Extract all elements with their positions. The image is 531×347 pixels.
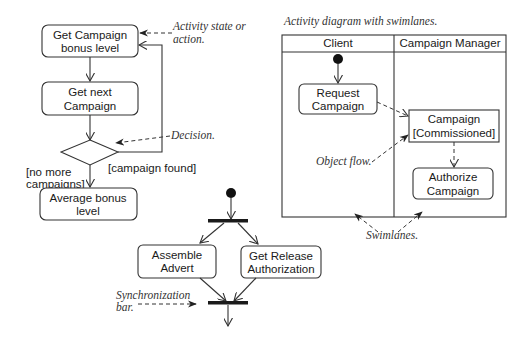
annotation-object-flow: Object flow. <box>316 155 371 168</box>
join-bar <box>208 301 248 305</box>
left-activity-flow: Get Campaign bonus level Get next Campai… <box>26 20 246 220</box>
object-label-line1: Campaign <box>428 113 480 125</box>
initial-node <box>226 188 236 198</box>
lane-header-campaign-manager: Campaign Manager <box>399 37 500 49</box>
activity-diagram-figure: Get Campaign bonus level Get next Campai… <box>0 0 531 347</box>
guard-campaign-found: [campaign found] <box>108 162 196 174</box>
swimlane-diagram: Activity diagram with swimlanes. Client … <box>282 15 506 241</box>
activity-get-release-authorization: Get Release Authorization <box>241 246 321 278</box>
initial-node <box>333 54 343 64</box>
activity-label-line2: level <box>76 205 100 217</box>
activity-label-line1: Authorize <box>429 171 478 183</box>
activity-label-line1: Average bonus <box>49 192 126 204</box>
annotation-activity-line2: action. <box>173 33 205 45</box>
annotation-activity-line1: Activity state or <box>172 20 246 33</box>
activity-label-line1: Get next <box>68 86 112 98</box>
flow-arrow <box>238 223 258 244</box>
flow-arrow <box>200 278 226 301</box>
object-campaign-commissioned: Campaign [Commissioned] <box>409 110 499 142</box>
object-label-line2: [Commissioned] <box>413 127 495 139</box>
activity-authorize-campaign: Authorize Campaign <box>413 168 493 199</box>
swimlane-caption: Activity diagram with swimlanes. <box>283 15 437 28</box>
activity-label-line2: Campaign <box>312 100 364 112</box>
activity-label-line1: Request <box>317 87 361 99</box>
activity-label-line1: Assemble <box>152 249 203 261</box>
activity-average-bonus-level: Average bonus level <box>40 188 137 220</box>
annotation-swimlanes: Swimlanes. <box>366 229 418 241</box>
activity-get-campaign-bonus-level: Get Campaign bonus level <box>42 25 138 57</box>
lane-header-client: Client <box>323 37 353 49</box>
activity-label-line2: Authorization <box>247 263 314 275</box>
guard-no-more-line1: [no more <box>26 166 71 178</box>
annotation-sync-line2: bar. <box>116 301 134 313</box>
activity-label-line2: bonus level <box>61 42 119 54</box>
annotation-decision: Decision. <box>170 129 215 141</box>
activity-label-line1: Get Campaign <box>53 29 127 41</box>
activity-get-next-campaign: Get next Campaign <box>42 82 138 115</box>
activity-label-line2: Campaign <box>427 185 479 197</box>
flow-arrow <box>200 223 224 243</box>
activity-request-campaign: Request Campaign <box>299 84 377 114</box>
fork-bar <box>208 219 248 223</box>
flow-arrow <box>234 278 256 301</box>
activity-label-line1: Get Release <box>249 250 313 262</box>
activity-label-line2: Advert <box>160 262 194 274</box>
activity-label-line2: Campaign <box>64 100 116 112</box>
activity-assemble-advert: Assemble Advert <box>138 245 216 278</box>
